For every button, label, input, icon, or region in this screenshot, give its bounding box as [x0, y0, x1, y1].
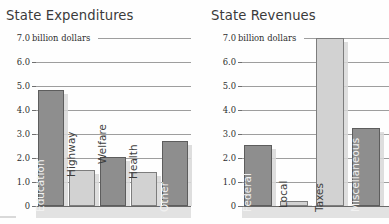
bar-label-highway: Highway [65, 131, 77, 177]
y-axis-tick-label: 5.0 [6, 81, 30, 91]
plot-area-expenditures: 7.0billion dollars6.05.04.03.02.01.00Edu… [0, 0, 195, 224]
bar-label-local: Local [277, 181, 289, 208]
y-axis-units-label: billion dollars [32, 33, 90, 43]
scan-edge-artifact-left [0, 216, 16, 218]
y-axis-tick-label: 0 [212, 201, 236, 211]
tick-mark-4.0 [238, 110, 242, 111]
y-axis-tick-label: 3.0 [6, 129, 30, 139]
tick-mark-6.0 [238, 62, 242, 63]
y-axis-tick-label: 1.0 [212, 177, 236, 187]
y-axis-tick-label: 4.0 [212, 105, 236, 115]
y-axis-tick-label: 0 [6, 201, 30, 211]
chart-state-revenues: State Revenues 7.0billion dollars6.05.04… [195, 0, 389, 224]
tick-mark-2.0 [238, 158, 242, 159]
y-axis-tick-label: 7.0 [212, 33, 236, 43]
bar-label-welfare: Welfare [96, 124, 108, 164]
y-axis-tick-label: 6.0 [6, 57, 30, 67]
bar-label-other: Other [158, 182, 170, 212]
plot-area-revenues: 7.0billion dollars6.05.04.03.02.01.00Fed… [195, 0, 389, 224]
gridline-5.0 [36, 86, 191, 87]
bar-label-miscellaneous: Miscellaneous [349, 138, 361, 212]
tick-mark-3.0 [32, 134, 36, 135]
y-axis-tick-label: 2.0 [6, 153, 30, 163]
bar-label-taxes: Taxes [313, 183, 325, 212]
y-axis-tick-label: 3.0 [212, 129, 236, 139]
tick-mark-3.0 [238, 134, 242, 135]
tick-mark-5.0 [238, 86, 242, 87]
y-axis-tick-label: 4.0 [6, 105, 30, 115]
tick-mark-4.0 [32, 110, 36, 111]
y-axis-tick-label: 5.0 [212, 81, 236, 91]
bar-label-education: Education [34, 159, 46, 212]
bar-label-federal: Federal [241, 173, 253, 212]
y-axis-tick-label: 1.0 [6, 177, 30, 187]
figure-root: State Expenditures 7.0billion dollars6.0… [0, 0, 389, 224]
y-axis-tick-label: 7.0 [6, 33, 30, 43]
gridline-7.0 [98, 38, 191, 39]
chart-state-expenditures: State Expenditures 7.0billion dollars6.0… [0, 0, 195, 224]
tick-mark-6.0 [32, 62, 36, 63]
y-axis-tick-label: 2.0 [212, 153, 236, 163]
y-axis-tick-label: 6.0 [212, 57, 236, 67]
gridline-6.0 [36, 62, 191, 63]
bar-taxes[interactable] [316, 38, 344, 206]
bar-welfare[interactable] [100, 157, 126, 206]
bar-label-health: Health [127, 145, 139, 180]
tick-mark-5.0 [32, 86, 36, 87]
y-axis-units-label: billion dollars [238, 33, 296, 43]
